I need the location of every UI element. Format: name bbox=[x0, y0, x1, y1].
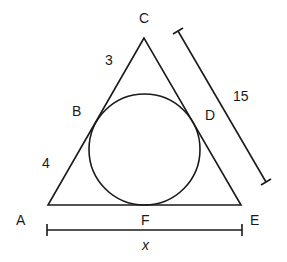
inscribed-circle bbox=[89, 94, 200, 205]
point-label-d: D bbox=[205, 107, 215, 123]
point-label-b: B bbox=[72, 103, 81, 119]
point-label-e: E bbox=[250, 212, 259, 228]
dimension-ce-line bbox=[178, 31, 266, 182]
segment-label-ba: 4 bbox=[42, 155, 50, 171]
segment-label-ae: x bbox=[141, 237, 150, 253]
dimension-ce bbox=[173, 28, 271, 185]
point-label-f: F bbox=[141, 212, 150, 228]
segment-label-cb: 3 bbox=[105, 52, 113, 68]
dimension-ce-tick-top bbox=[173, 28, 183, 34]
segment-label-ce: 15 bbox=[233, 88, 249, 104]
dimension-ce-tick-bottom bbox=[261, 179, 271, 185]
geometry-diagram: C B D A F E 3 4 15 x bbox=[0, 0, 287, 262]
point-label-a: A bbox=[16, 212, 26, 228]
point-label-c: C bbox=[139, 10, 149, 26]
